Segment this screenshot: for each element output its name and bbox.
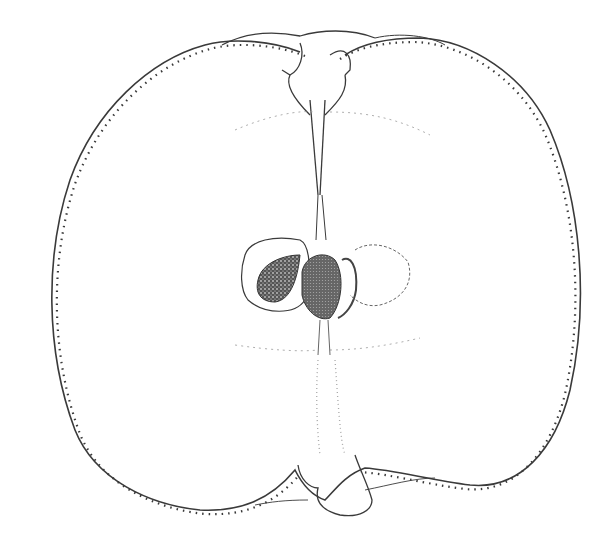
core: [242, 195, 410, 355]
apple-cross-section-drawing: [0, 0, 605, 542]
seed-center: [302, 255, 341, 319]
apple-illustration: [0, 0, 605, 542]
seed-left: [257, 255, 300, 302]
stem-cavity: [222, 31, 445, 195]
